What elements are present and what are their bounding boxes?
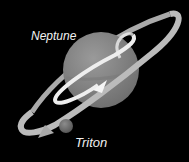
neptune-triton-diagram: Neptune Triton [0, 0, 189, 162]
triton-moon [59, 119, 73, 133]
neptune-label: Neptune [31, 29, 76, 43]
triton-label: Triton [75, 135, 107, 150]
